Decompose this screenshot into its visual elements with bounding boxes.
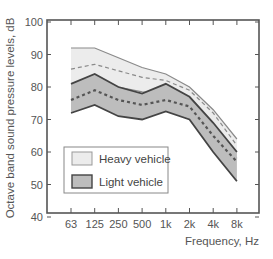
x-tick-label: 4k <box>207 218 219 230</box>
x-tick-label: 500 <box>133 218 151 230</box>
legend-label-light-vehicle: Light vehicle <box>99 176 163 188</box>
x-tick-label: 125 <box>86 218 104 230</box>
legend-swatch-heavy-vehicle <box>72 152 92 165</box>
y-tick-label: 90 <box>31 49 43 61</box>
y-tick-label: 100 <box>25 16 43 28</box>
y-tick-label: 70 <box>31 114 43 126</box>
sound-pressure-chart: 405060708090100 631252505001k2k4k8k Octa… <box>0 0 273 259</box>
legend-label-heavy-vehicle: Heavy vehicle <box>99 153 171 165</box>
y-tick-label: 50 <box>31 179 43 191</box>
x-tick-label: 250 <box>109 218 127 230</box>
legend: Heavy vehicle Light vehicle <box>64 147 171 193</box>
x-tick-label: 8k <box>231 218 243 230</box>
x-tick-label: 2k <box>184 218 196 230</box>
y-tick-label: 60 <box>31 146 43 158</box>
x-tick-label: 1k <box>160 218 172 230</box>
x-tick-label: 63 <box>65 218 77 230</box>
x-axis-title: Frequency, Hz <box>185 235 259 247</box>
legend-swatch-light-vehicle <box>72 175 92 188</box>
y-axis-title: Octave band sound pressure levels, dB <box>4 17 16 218</box>
y-tick-label: 40 <box>31 211 43 223</box>
y-tick-label: 80 <box>31 81 43 93</box>
